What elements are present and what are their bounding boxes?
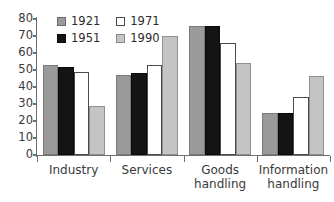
bar — [220, 43, 236, 155]
bar-group — [184, 19, 257, 155]
x-axis-tick — [257, 156, 258, 162]
legend-label: 1971 — [130, 16, 159, 28]
x-axis-tick — [330, 156, 331, 162]
legend-label: 1990 — [130, 33, 159, 45]
legend-item: 1990 — [116, 31, 159, 46]
y-axis-tick-label: 10 — [5, 132, 33, 144]
y-axis-tick-label: 40 — [5, 81, 33, 93]
chart-legend: 1921197119511990 — [57, 14, 160, 46]
y-axis-tick-label: 60 — [5, 47, 33, 59]
bar — [74, 72, 90, 155]
x-axis-tick — [184, 156, 185, 162]
bar-chart: 01020304050607080 IndustryServicesGoodsh… — [0, 0, 334, 202]
x-axis-category-label-line: Information — [251, 163, 334, 177]
y-axis-tick-label: 0 — [5, 149, 33, 161]
legend-item: 1921 — [57, 14, 100, 29]
y-axis-tick-label: 80 — [5, 13, 33, 25]
bar — [58, 67, 74, 155]
bar — [293, 97, 309, 155]
y-axis-tick-label: 20 — [5, 115, 33, 127]
legend-item: 1971 — [116, 14, 159, 29]
x-axis-tick — [37, 156, 38, 162]
bar-group — [257, 19, 330, 155]
bar — [278, 113, 294, 155]
bar — [205, 26, 221, 155]
legend-label: 1951 — [71, 33, 100, 45]
bar — [309, 76, 325, 155]
legend-swatch-icon — [116, 34, 125, 43]
legend-swatch-icon — [57, 34, 66, 43]
bar — [116, 75, 132, 155]
x-axis-tick — [110, 156, 111, 162]
bar — [236, 63, 252, 155]
x-axis-category-label: Informationhandling — [251, 163, 334, 191]
bar — [162, 36, 178, 155]
y-axis-tick-label: 50 — [5, 64, 33, 76]
y-axis-labels: 01020304050607080 — [0, 0, 33, 202]
bar — [147, 65, 163, 155]
legend-swatch-icon — [116, 17, 125, 26]
legend-item: 1951 — [57, 31, 100, 46]
y-axis-tick-label: 70 — [5, 30, 33, 42]
x-axis-category-label-line: handling — [251, 177, 334, 191]
bar — [262, 113, 278, 155]
legend-swatch-icon — [57, 17, 66, 26]
bar — [131, 73, 147, 155]
bar — [189, 26, 205, 155]
bar — [89, 106, 105, 155]
legend-label: 1921 — [71, 16, 100, 28]
y-axis-tick-label: 30 — [5, 98, 33, 110]
bar — [43, 65, 59, 155]
